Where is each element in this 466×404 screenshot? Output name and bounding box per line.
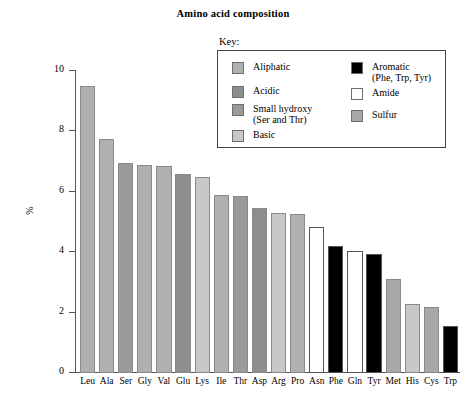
bar-glu bbox=[175, 174, 190, 373]
bar-trp bbox=[443, 326, 458, 373]
bar-pro bbox=[290, 214, 305, 373]
legend: AliphaticAcidicSmall hydroxy (Ser and Th… bbox=[217, 50, 446, 148]
bar-lys bbox=[195, 177, 210, 373]
legend-item-label: Acidic bbox=[253, 85, 280, 96]
legend-swatch-icon bbox=[232, 104, 244, 116]
bar-met bbox=[386, 279, 401, 373]
legend-item-label: Basic bbox=[253, 129, 275, 140]
y-axis-tick-label: 4 bbox=[24, 244, 64, 255]
legend-item-aromatic: Aromatic (Phe, Trp, Tyr) bbox=[351, 61, 431, 83]
bar-ala bbox=[99, 139, 114, 373]
bar-arg bbox=[271, 213, 286, 373]
page-title: Amino acid composition bbox=[0, 8, 466, 19]
legend-item-label: Aromatic (Phe, Trp, Tyr) bbox=[372, 61, 431, 83]
y-axis-tick bbox=[69, 70, 76, 71]
x-axis-labels: LeuAlaSerGlyValGluLysIleThrAspArgProAsnP… bbox=[78, 376, 460, 398]
legend-item-basic: Basic bbox=[232, 129, 275, 142]
legend-swatch-icon bbox=[351, 88, 363, 100]
legend-item-aliphatic: Aliphatic bbox=[232, 61, 290, 74]
bar-ile bbox=[214, 195, 229, 373]
y-axis-tick-label: 0 bbox=[24, 365, 64, 376]
x-axis-label-trp: Trp bbox=[434, 376, 466, 386]
bar-asp bbox=[252, 208, 267, 373]
legend-item-acidic: Acidic bbox=[232, 85, 280, 98]
legend-item-label: Amide bbox=[372, 87, 399, 98]
y-axis-tick bbox=[69, 251, 76, 252]
y-axis-line bbox=[75, 70, 76, 373]
y-axis-tick-label: 10 bbox=[24, 63, 64, 74]
bar-val bbox=[156, 166, 171, 373]
y-axis-tick-label: 8 bbox=[24, 123, 64, 134]
bar-leu bbox=[80, 86, 95, 373]
bar-gln bbox=[347, 251, 362, 373]
y-axis-tick bbox=[69, 130, 76, 131]
legend-swatch-icon bbox=[351, 62, 363, 74]
legend-item-sulfur: Sulfur bbox=[351, 109, 397, 122]
y-axis-tick bbox=[69, 312, 76, 313]
y-axis-tick-label: 2 bbox=[24, 305, 64, 316]
y-axis-tick bbox=[69, 372, 76, 373]
legend-item-label: Sulfur bbox=[372, 109, 397, 120]
bar-cys bbox=[424, 307, 439, 373]
bar-ser bbox=[118, 163, 133, 373]
legend-item-label: Aliphatic bbox=[253, 61, 290, 72]
legend-item-label: Small hydroxy (Ser and Thr) bbox=[253, 103, 312, 125]
bar-asn bbox=[309, 227, 324, 373]
bar-thr bbox=[233, 196, 248, 373]
bar-tyr bbox=[366, 254, 381, 373]
legend-swatch-icon bbox=[351, 110, 363, 122]
bar-gly bbox=[137, 165, 152, 373]
legend-swatch-icon bbox=[232, 130, 244, 142]
legend-swatch-icon bbox=[232, 62, 244, 74]
legend-item-small-hydroxy: Small hydroxy (Ser and Thr) bbox=[232, 103, 312, 125]
y-axis-tick bbox=[69, 191, 76, 192]
y-axis-tick-label: 6 bbox=[24, 184, 64, 195]
legend-swatch-icon bbox=[232, 86, 244, 98]
bar-phe bbox=[328, 246, 343, 373]
legend-title: Key: bbox=[219, 36, 239, 47]
legend-item-amide: Amide bbox=[351, 87, 399, 100]
bar-his bbox=[405, 304, 420, 373]
